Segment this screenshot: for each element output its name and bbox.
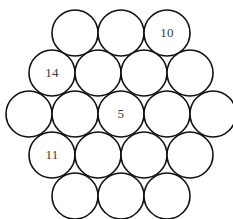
hexagon-cell-r3c5[interactable] bbox=[190, 91, 233, 137]
cell-value-r2c1: 14 bbox=[45, 65, 59, 80]
hexagon-cell-r5c1[interactable] bbox=[52, 173, 98, 219]
hexagon-cell-r4c4[interactable] bbox=[167, 132, 213, 178]
hexagon-cell-r5c2[interactable] bbox=[98, 173, 144, 219]
magic-hexagon-figure: 1014511 bbox=[0, 0, 233, 219]
hexagon-cell-r2c4[interactable] bbox=[167, 50, 213, 96]
hexagon-circle-grid: 1014511 bbox=[0, 0, 233, 219]
hexagon-cell-r5c3[interactable] bbox=[144, 173, 190, 219]
hexagon-cell-r2c3[interactable] bbox=[121, 50, 167, 96]
hexagon-cell-r1c2[interactable] bbox=[98, 10, 144, 56]
hexagon-cell-r3c4[interactable] bbox=[144, 91, 190, 137]
cell-value-r4c1: 11 bbox=[45, 147, 58, 162]
cell-value-r1c3: 10 bbox=[160, 25, 174, 40]
hexagon-cell-r4c3[interactable] bbox=[121, 132, 167, 178]
hexagon-cell-r4c2[interactable] bbox=[75, 132, 121, 178]
hexagon-cell-r2c2[interactable] bbox=[75, 50, 121, 96]
hexagon-cell-r3c1[interactable] bbox=[6, 91, 52, 137]
hexagon-cell-r3c2[interactable] bbox=[52, 91, 98, 137]
hexagon-cell-r1c1[interactable] bbox=[52, 10, 98, 56]
cell-value-r3c3: 5 bbox=[118, 106, 125, 121]
